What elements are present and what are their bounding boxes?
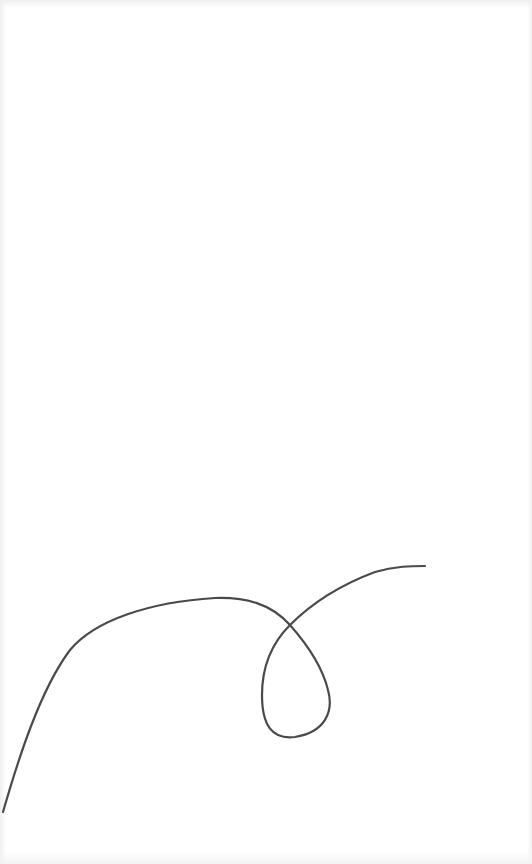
looped-curve xyxy=(3,566,425,812)
scanned-page: Single continuous hand-drawn line with a… xyxy=(0,0,532,864)
line-drawing xyxy=(0,0,532,864)
